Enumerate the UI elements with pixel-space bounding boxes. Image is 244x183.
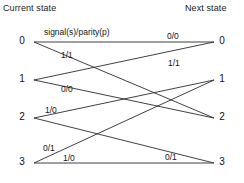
state-node-next-0: 0 — [216, 35, 228, 46]
edge-label-e-3-1: 0/1 — [165, 152, 177, 162]
state-node-current-1: 1 — [16, 73, 28, 84]
edge-label-e-1-2: 0/0 — [61, 84, 73, 94]
edge-label-e-3-3: 1/0 — [63, 153, 75, 163]
edge-label-e-2-3: 0/1 — [43, 143, 55, 153]
edge-label-e-0-2: 1/1 — [61, 50, 73, 60]
state-node-current-3: 3 — [16, 156, 28, 167]
state-node-current-0: 0 — [16, 35, 28, 46]
notation-legend: signal(s)/parity(p) — [44, 27, 110, 37]
edge-1-to-0 — [34, 42, 214, 80]
state-node-current-2: 2 — [16, 111, 28, 122]
edge-2-to-3 — [34, 118, 214, 163]
state-node-next-3: 3 — [216, 156, 228, 167]
state-node-next-2: 2 — [216, 111, 228, 122]
edge-label-e-0-0: 0/0 — [167, 31, 179, 41]
state-node-next-1: 1 — [216, 73, 228, 84]
edge-label-e-1-0: 1/1 — [168, 58, 180, 68]
edge-label-e-2-1: 1/0 — [45, 105, 57, 115]
trellis-edges — [0, 0, 244, 183]
trellis-diagram: Current state Next state 01230123 signal… — [0, 0, 244, 183]
